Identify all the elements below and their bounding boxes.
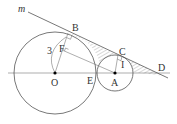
right-angle-F xyxy=(65,48,69,51)
label-B: B xyxy=(72,22,79,33)
label-O: O xyxy=(51,77,58,88)
label-m: m xyxy=(18,3,25,14)
label-C: C xyxy=(119,46,126,57)
label-E: E xyxy=(87,75,93,86)
radius-AC xyxy=(115,55,118,73)
point-A xyxy=(113,71,116,74)
geometry-diagram: m B 3 F C I D E O A xyxy=(0,0,177,124)
label-A: A xyxy=(111,77,119,88)
label-F: F xyxy=(59,43,65,54)
label-D: D xyxy=(158,62,165,73)
label-I: I xyxy=(121,59,124,70)
point-O xyxy=(53,71,56,74)
label-radius: 3 xyxy=(47,45,52,56)
